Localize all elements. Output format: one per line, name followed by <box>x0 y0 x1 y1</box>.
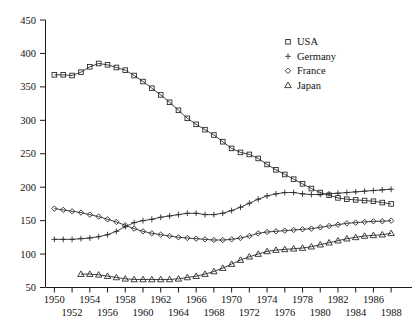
series-germany <box>51 186 394 242</box>
x-tick-label: 1976 <box>274 307 295 318</box>
data-point-germany <box>255 196 261 202</box>
data-point-germany <box>78 236 84 242</box>
data-point-germany <box>60 236 66 242</box>
data-point-germany <box>344 190 350 196</box>
x-axis: 1950195219541956195819601962196419661968… <box>44 288 412 319</box>
x-tick-label: 1956 <box>97 307 118 318</box>
data-point-germany <box>131 220 137 226</box>
x-tick-label: 1982 <box>327 294 348 305</box>
legend-label-germany: Germany <box>297 51 337 62</box>
data-point-germany <box>362 188 368 194</box>
data-point-germany <box>140 218 146 224</box>
data-point-germany <box>176 212 182 218</box>
data-point-germany <box>353 189 359 195</box>
series-group <box>51 61 394 282</box>
x-tick-label: 1962 <box>150 294 171 305</box>
chart-legend: USAGermanyFranceJapan <box>285 36 337 91</box>
x-tick-label: 1968 <box>203 307 224 318</box>
data-point-germany <box>105 232 111 238</box>
x-tick-label: 1966 <box>186 294 207 305</box>
line-chart: 50100150200250300350400450 1950195219541… <box>0 0 417 322</box>
data-point-germany <box>273 191 279 197</box>
data-point-germany <box>158 214 164 220</box>
x-tick-label: 1964 <box>168 307 190 318</box>
y-tick-label: 200 <box>20 182 36 193</box>
data-point-germany <box>300 191 306 197</box>
legend-marker-square-icon <box>286 40 291 45</box>
legend-label-usa: USA <box>297 36 318 47</box>
y-tick-label: 250 <box>20 148 36 159</box>
legend-item-germany[interactable]: Germany <box>285 51 337 62</box>
data-point-germany <box>220 210 226 216</box>
x-tick-label: 1954 <box>79 294 101 305</box>
x-tick-label: 1960 <box>132 307 153 318</box>
data-point-germany <box>282 190 288 196</box>
y-tick-label: 350 <box>20 81 36 92</box>
series-line-japan <box>81 233 391 279</box>
series-line-usa <box>54 63 391 203</box>
data-point-germany <box>246 200 252 206</box>
data-point-germany <box>202 212 208 218</box>
legend-item-usa[interactable]: USA <box>286 36 319 47</box>
legend-item-france[interactable]: France <box>285 65 326 76</box>
y-tick-label: 50 <box>26 282 37 293</box>
x-tick-group: 1950195219541956195819601962196419661968… <box>44 288 402 319</box>
data-point-germany <box>184 210 190 216</box>
y-tick-label: 450 <box>20 15 36 26</box>
x-tick-label: 1980 <box>310 307 331 318</box>
x-tick-label: 1950 <box>44 294 65 305</box>
legend-marker-plus-icon <box>285 53 291 59</box>
data-point-germany <box>238 204 244 210</box>
data-point-germany <box>87 235 93 241</box>
legend-item-japan[interactable]: Japan <box>285 80 322 91</box>
x-tick-label: 1978 <box>292 294 313 305</box>
x-tick-label: 1972 <box>239 307 260 318</box>
data-point-germany <box>379 187 385 193</box>
x-tick-label: 1986 <box>363 294 384 305</box>
legend-label-france: France <box>297 65 326 76</box>
legend-marker-diamond-icon <box>285 68 290 73</box>
y-tick-label: 100 <box>20 249 36 260</box>
data-point-germany <box>69 236 75 242</box>
series-japan <box>78 230 395 282</box>
chart-container: 50100150200250300350400450 1950195219541… <box>0 0 417 322</box>
y-tick-label: 300 <box>20 115 36 126</box>
data-point-germany <box>149 216 155 222</box>
data-point-germany <box>371 188 377 194</box>
data-point-germany <box>96 234 102 240</box>
y-tick-label: 400 <box>20 48 36 59</box>
x-tick-label: 1988 <box>381 307 402 318</box>
data-point-japan <box>388 230 394 236</box>
x-tick-label: 1952 <box>62 307 83 318</box>
data-point-germany <box>291 190 297 196</box>
y-tick-label: 150 <box>20 215 36 226</box>
y-axis: 50100150200250300350400450 <box>20 15 45 294</box>
data-point-germany <box>51 236 57 242</box>
data-point-germany <box>167 213 173 219</box>
x-tick-label: 1974 <box>257 294 279 305</box>
data-point-germany <box>229 208 235 214</box>
data-point-germany <box>308 192 314 198</box>
x-tick-label: 1970 <box>221 294 242 305</box>
data-point-germany <box>211 212 217 218</box>
legend-marker-triangle-icon <box>285 82 291 88</box>
data-point-germany <box>388 186 394 192</box>
data-point-germany <box>264 193 270 199</box>
series-usa <box>52 61 393 206</box>
data-point-germany <box>193 210 199 216</box>
y-tick-group: 50100150200250300350400450 <box>20 15 45 294</box>
data-point-germany <box>114 228 120 234</box>
x-tick-label: 1958 <box>115 294 136 305</box>
x-tick-label: 1984 <box>345 307 367 318</box>
legend-label-japan: Japan <box>297 80 322 91</box>
